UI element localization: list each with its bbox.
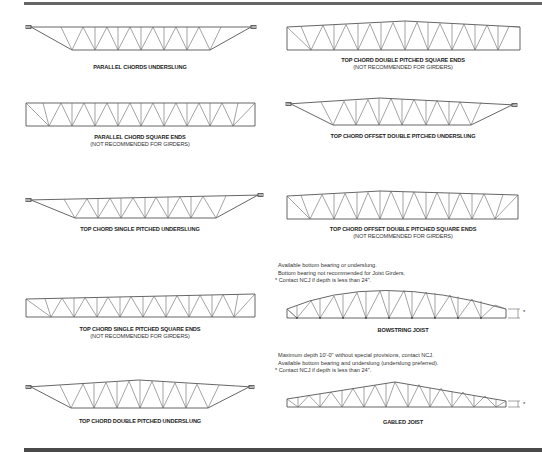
- diagram-title: GABLED JOIST: [303, 419, 503, 426]
- truss-top-chord-double-pitched-square-ends: [287, 21, 520, 50]
- diagram-subtitle: (NOT RECOMMENDED FOR GIRDERS): [40, 141, 240, 148]
- diagram-title: PARALLEL CHORDS UNDERSLUNG: [40, 64, 240, 71]
- label-top-chord-double-pitched-underslung: TOP CHORD DOUBLE PITCHED UNDERSLUNG: [40, 418, 240, 425]
- diagram-title: TOP CHORD DOUBLE PITCHED UNDERSLUNG: [40, 418, 240, 425]
- gabled-notes: Maximum depth 10'-0" without special pro…: [275, 352, 438, 375]
- truss-parallel-chord-square-ends: [26, 103, 255, 126]
- truss-parallel-chords-underslung: [26, 26, 256, 51]
- gabled-depth-asterisk: *: [523, 401, 525, 409]
- note-line: Available bottom bearing and underslung …: [275, 360, 438, 368]
- diagram-subtitle: (NOT RECOMMENDED FOR GIRDERS): [303, 233, 503, 240]
- truss-top-chord-single-pitched-underslung: [26, 194, 263, 219]
- label-bowstring-joist: BOWSTRING JOIST: [303, 327, 503, 334]
- note-line: * Contact NCJ if depth is less than 24".: [275, 277, 405, 285]
- truss-top-chord-double-pitched-underslung: [26, 380, 254, 408]
- note-line: Available bottom bearing or underslung.: [275, 262, 405, 270]
- label-parallel-chord-square-ends: PARALLEL CHORD SQUARE ENDS (NOT RECOMMEN…: [40, 134, 240, 148]
- diagram-title: TOP CHORD SINGLE PITCHED SQUARE ENDS: [40, 326, 240, 333]
- diagram-subtitle: (NOT RECOMMENDED FOR GIRDERS): [303, 64, 503, 71]
- truss-top-chord-offset-double-pitched-underslung: [286, 98, 517, 125]
- truss-top-chord-single-pitched-square-ends: [26, 294, 255, 317]
- gabled-depth-marker: [508, 401, 520, 407]
- note-line: Maximum depth 10'-0" without special pro…: [275, 352, 438, 360]
- label-parallel-chords-underslung: PARALLEL CHORDS UNDERSLUNG: [40, 64, 240, 71]
- diagram-subtitle: (NOT RECOMMENDED FOR GIRDERS): [40, 333, 240, 340]
- diagram-title: TOP CHORD OFFSET DOUBLE PITCHED SQUARE E…: [303, 226, 503, 233]
- bowstring-depth-marker: [508, 309, 520, 318]
- label-top-chord-single-pitched-underslung: TOP CHORD SINGLE PITCHED UNDERSLUNG: [40, 226, 240, 233]
- note-line: * Contact NCJ if depth is less than 24".: [275, 367, 438, 375]
- diagram-title: TOP CHORD SINGLE PITCHED UNDERSLUNG: [40, 226, 240, 233]
- note-line: Bottom bearing not recommended for Joist…: [275, 270, 405, 278]
- bottom-border-rule: [24, 448, 542, 452]
- truss-top-chord-offset-double-pitched-square-ends: [287, 191, 518, 219]
- bowstring-notes: Available bottom bearing or underslung. …: [275, 262, 405, 285]
- truss-bowstring-joist: [287, 291, 506, 319]
- label-top-chord-offset-double-pitched-square-ends: TOP CHORD OFFSET DOUBLE PITCHED SQUARE E…: [303, 226, 503, 240]
- label-top-chord-single-pitched-square-ends: TOP CHORD SINGLE PITCHED SQUARE ENDS (NO…: [40, 326, 240, 340]
- label-gabled-joist: GABLED JOIST: [303, 419, 503, 426]
- label-top-chord-offset-double-pitched-underslung: TOP CHORD OFFSET DOUBLE PITCHED UNDERSLU…: [303, 133, 503, 140]
- label-top-chord-double-pitched-square-ends: TOP CHORD DOUBLE PITCHED SQUARE ENDS (NO…: [303, 57, 503, 71]
- truss-gabled-joist: [287, 382, 506, 407]
- diagram-title: TOP CHORD OFFSET DOUBLE PITCHED UNDERSLU…: [303, 133, 503, 140]
- diagram-title: BOWSTRING JOIST: [303, 327, 503, 334]
- diagram-title: PARALLEL CHORD SQUARE ENDS: [40, 134, 240, 141]
- diagram-title: TOP CHORD DOUBLE PITCHED SQUARE ENDS: [303, 57, 503, 64]
- bowstring-depth-asterisk: *: [523, 309, 525, 317]
